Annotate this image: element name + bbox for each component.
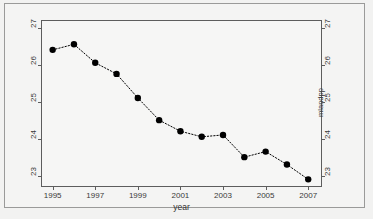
axis-tick — [266, 187, 267, 190]
data-point-marker — [135, 95, 141, 101]
x-axis-tick-label: 2001 — [166, 192, 194, 200]
data-point-marker — [199, 134, 205, 140]
axis-tick — [180, 187, 181, 190]
data-point-marker — [305, 176, 311, 182]
data-point-marker — [92, 60, 98, 66]
data-point-marker — [241, 154, 247, 160]
axis-tick — [308, 187, 309, 190]
x-axis-title: year — [142, 202, 222, 212]
x-axis-tick-label: 1997 — [81, 192, 109, 200]
data-point-marker — [262, 148, 268, 154]
axis-tick — [322, 139, 325, 140]
y-axis-title: mlandpp — [316, 82, 325, 122]
axis-tick — [322, 176, 325, 177]
axis-tick — [322, 65, 325, 66]
series-line-mlandpp — [42, 21, 321, 186]
data-point-marker — [71, 41, 77, 47]
chart-screenshot: 2324252627 2324252627 199519971999200120… — [0, 0, 373, 219]
data-point-marker — [156, 117, 162, 123]
axis-tick — [322, 28, 325, 29]
plot-frame — [41, 20, 322, 187]
x-axis-tick-label: 2003 — [209, 192, 237, 200]
data-point-marker — [49, 47, 55, 53]
data-point-marker — [220, 132, 226, 138]
x-axis-tick-label: 2005 — [252, 192, 280, 200]
data-point-marker — [177, 128, 183, 134]
data-point-marker — [113, 71, 119, 77]
x-axis-tick-label: 1999 — [124, 192, 152, 200]
x-axis-tick-label: 2007 — [294, 192, 322, 200]
axis-tick — [138, 187, 139, 190]
figure-canvas: 2324252627 2324252627 199519971999200120… — [5, 4, 364, 207]
series-path — [53, 44, 309, 179]
x-axis-tick-label: 1995 — [39, 192, 67, 200]
data-point-marker — [284, 161, 290, 167]
axis-tick — [223, 187, 224, 190]
axis-tick — [95, 187, 96, 190]
axis-tick — [53, 187, 54, 190]
plot-area — [42, 21, 321, 186]
